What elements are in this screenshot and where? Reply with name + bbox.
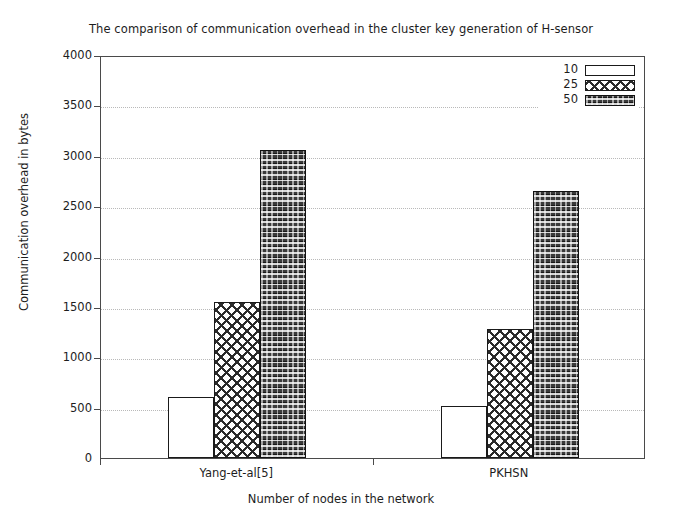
plot-area: [100, 56, 645, 459]
legend-swatch-50: [585, 95, 635, 106]
y-tick-mark: [94, 358, 101, 359]
chart-title: The comparison of communication overhead…: [0, 22, 682, 36]
x-tick-mark: [100, 459, 101, 465]
y-tick-label: 3000: [34, 149, 92, 163]
x-axis-title: Number of nodes in the network: [0, 492, 682, 506]
gridline: [101, 158, 644, 159]
bar-pkhsn-10: [441, 406, 487, 458]
y-tick-label: 2500: [34, 199, 92, 213]
y-tick-mark: [94, 409, 101, 410]
legend-label-25: 25: [563, 79, 578, 91]
bar-yang-et-al-5--25: [214, 302, 260, 458]
y-tick-label: 2000: [34, 250, 92, 264]
y-tick-mark: [94, 56, 101, 57]
y-tick-label: 500: [34, 401, 92, 415]
bar-yang-et-al-5--10: [168, 397, 214, 458]
legend-swatch-10: [585, 65, 635, 76]
x-category-label: Yang-et-al[5]: [200, 466, 274, 480]
y-tick-label: 0: [34, 451, 92, 465]
y-tick-mark: [94, 157, 101, 158]
y-tick-mark: [94, 258, 101, 259]
legend-swatch-25: [585, 80, 635, 91]
bar-chart: The comparison of communication overhead…: [0, 0, 682, 521]
y-tick-mark: [94, 308, 101, 309]
legend-label-50: 50: [563, 94, 578, 106]
plot-inner: [101, 57, 644, 458]
y-tick-mark: [94, 207, 101, 208]
bar-pkhsn-25: [487, 329, 533, 458]
legend-item-25: 25: [542, 78, 635, 92]
y-tick-label: 1000: [34, 350, 92, 364]
bar-yang-et-al-5--50: [260, 150, 306, 458]
legend-item-50: 50: [542, 93, 635, 107]
x-category-label: PKHSN: [489, 466, 528, 480]
bar-pkhsn-50: [533, 191, 579, 458]
legend-label-10: 10: [563, 64, 578, 76]
y-tick-label: 1500: [34, 300, 92, 314]
y-tick-mark: [94, 106, 101, 107]
y-tick-label: 4000: [34, 48, 92, 62]
chart-legend: 10 25 50: [538, 60, 639, 112]
legend-item-10: 10: [542, 63, 635, 77]
y-axis-title: Communication overhead in bytes: [17, 42, 31, 382]
x-tick-mark: [373, 459, 374, 465]
y-tick-label: 3500: [34, 98, 92, 112]
